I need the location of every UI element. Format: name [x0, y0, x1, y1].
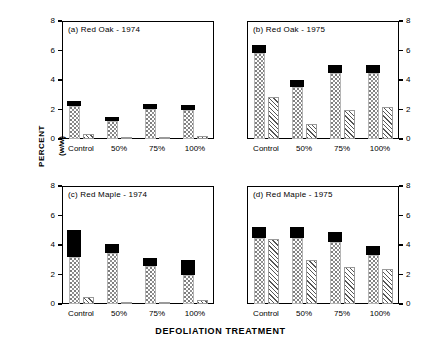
y-axis-tick-label: 4 — [35, 76, 55, 84]
bar-hatched — [268, 97, 279, 139]
bar-solid-cap — [181, 260, 195, 275]
y-axis-tick — [399, 138, 403, 139]
x-axis-tick-label: 100% — [370, 309, 390, 318]
x-axis-tick-label: Control — [68, 144, 94, 153]
x-axis-tick-label: 75% — [149, 144, 165, 153]
bar-hatched — [268, 239, 279, 304]
y-axis-title: PERCENT (w/w) — [27, 101, 67, 191]
panel-title: (b) Red Oak - 1975 — [253, 25, 325, 34]
bar-hatched — [159, 302, 170, 304]
bar-solid-cap — [366, 246, 380, 255]
bar-stippled — [330, 242, 341, 304]
x-axis-tick-label: Control — [253, 144, 279, 153]
y-axis-tick — [58, 20, 62, 21]
y-axis-tick-label: 2 — [35, 106, 55, 114]
bar-hatched — [344, 110, 355, 140]
bar-solid-cap — [290, 80, 304, 87]
y-axis-tick — [58, 185, 62, 186]
bar-hatched — [83, 297, 94, 304]
y-axis-title-line1: PERCENT — [37, 125, 46, 167]
bar-solid-cap — [181, 105, 195, 109]
x-axis-tick-label: 100% — [370, 144, 390, 153]
bar-stippled — [254, 53, 265, 139]
bar-hatched — [121, 137, 132, 139]
bar-stippled — [254, 238, 265, 304]
x-axis-tick-label: 50% — [111, 144, 127, 153]
bar-solid-cap — [67, 101, 81, 105]
bar-stippled — [292, 238, 303, 304]
bar-hatched — [159, 137, 170, 139]
x-axis-tick-label: 50% — [111, 309, 127, 318]
x-axis-tick-label: 100% — [185, 144, 205, 153]
y-axis-tick-label: 4 — [35, 241, 55, 249]
bar-solid-cap — [252, 45, 266, 53]
y-axis-tick-label: 2 — [35, 271, 55, 279]
x-axis-tick-label: Control — [68, 309, 94, 318]
bar-solid-cap — [252, 227, 266, 238]
x-axis-tick-label: 100% — [185, 309, 205, 318]
bar-hatched — [344, 267, 355, 304]
bar-hatched — [306, 260, 317, 304]
bar-stippled — [145, 109, 156, 139]
y-axis-tick-label: 0 — [35, 300, 55, 308]
y-axis-tick — [399, 79, 403, 80]
x-axis-tick-label: Control — [253, 309, 279, 318]
bar-solid-cap — [366, 65, 380, 73]
y-axis-tick — [58, 50, 62, 51]
x-axis-tick-label: 50% — [296, 144, 312, 153]
y-axis-tick-label: 6 — [35, 212, 55, 220]
y-axis-tick — [58, 138, 62, 139]
x-axis-tick-label: 75% — [149, 309, 165, 318]
x-axis-tick-label: 75% — [334, 309, 350, 318]
bar-hatched — [382, 107, 393, 139]
bar-stippled — [107, 253, 118, 304]
bar-stippled — [183, 275, 194, 305]
y-axis-tick-label: 6 — [406, 47, 426, 55]
panel-b: (b) Red Oak - 197502468Control50%75%100% — [247, 21, 399, 139]
y-axis-tick-label: 2 — [406, 271, 426, 279]
bar-hatched — [382, 269, 393, 304]
y-axis-tick-label: 0 — [406, 135, 426, 143]
figure-red-oak-red-maple-defoliation: PERCENT (w/w) DEFOLIATION TREATMENT (a) … — [0, 0, 441, 346]
y-axis-tick-label: 0 — [406, 300, 426, 308]
bar-solid-cap — [143, 104, 157, 108]
bar-solid-cap — [328, 232, 342, 242]
bar-solid-cap — [105, 244, 119, 253]
bar-stippled — [292, 87, 303, 139]
x-axis-title: DEFOLIATION TREATMENT — [0, 326, 441, 336]
bar-stippled — [368, 255, 379, 304]
bar-hatched — [306, 124, 317, 139]
bar-hatched — [197, 136, 208, 139]
y-axis-tick — [58, 215, 62, 216]
panel-title: (d) Red Maple - 1975 — [253, 190, 333, 199]
bar-stippled — [107, 121, 118, 139]
y-axis-tick — [58, 109, 62, 110]
y-axis-tick — [399, 20, 403, 21]
bar-hatched — [121, 302, 132, 304]
panel-title: (c) Red Maple - 1974 — [68, 190, 147, 199]
x-axis-tick-label: 75% — [334, 144, 350, 153]
y-axis-tick — [58, 244, 62, 245]
bar-solid-cap — [328, 65, 342, 73]
x-axis-tick-label: 50% — [296, 309, 312, 318]
y-axis-tick — [399, 185, 403, 186]
panel-d: (d) Red Maple - 197502468Control50%75%10… — [247, 186, 399, 304]
bar-stippled — [69, 106, 80, 139]
y-axis-tick — [399, 244, 403, 245]
y-axis-tick — [58, 79, 62, 80]
y-axis-tick — [399, 215, 403, 216]
bar-stippled — [183, 110, 194, 140]
bar-hatched — [197, 300, 208, 304]
y-axis-tick-label: 4 — [406, 241, 426, 249]
bar-stippled — [330, 73, 341, 139]
bar-stippled — [145, 266, 156, 304]
bar-stippled — [368, 73, 379, 139]
y-axis-tick — [399, 274, 403, 275]
bar-solid-cap — [143, 258, 157, 265]
y-axis-tick — [58, 303, 62, 304]
y-axis-tick — [399, 50, 403, 51]
y-axis-tick-label: 4 — [406, 76, 426, 84]
y-axis-tick — [58, 274, 62, 275]
y-axis-tick-label: 8 — [35, 17, 55, 25]
y-axis-tick-label: 8 — [406, 17, 426, 25]
